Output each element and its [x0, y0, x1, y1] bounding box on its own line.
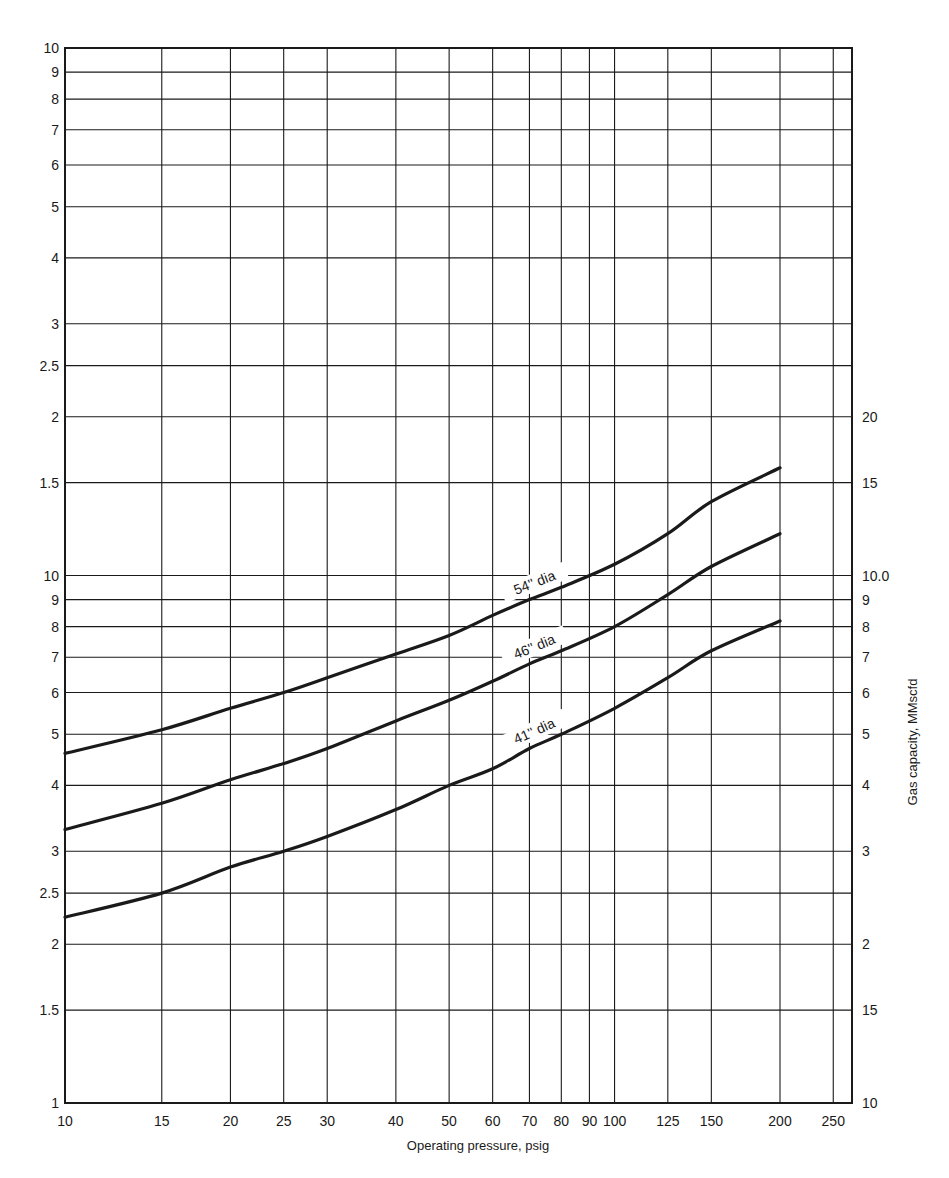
chart-grid — [65, 48, 852, 1103]
x-tick-label: 20 — [223, 1113, 239, 1129]
x-tick-label: 10 — [57, 1113, 73, 1129]
y-left-tick-label: 9 — [51, 64, 59, 80]
y-right-tick-label: 6 — [862, 685, 870, 701]
y-right-tick-label: 15 — [862, 475, 878, 491]
y-left-tick-label: 2 — [51, 409, 59, 425]
y-left-tick-label: 9 — [51, 592, 59, 608]
y-left-tick-label: 1.5 — [40, 1002, 60, 1018]
x-tick-label: 70 — [522, 1113, 538, 1129]
y-left-tick-label: 7 — [51, 122, 59, 138]
curve-label: 41'' dia — [511, 715, 557, 747]
y-right-tick-label: 9 — [862, 592, 870, 608]
gas-capacity-chart: 54'' dia46'' dia41'' dia 11.522.53456789… — [0, 0, 949, 1178]
x-tick-label: 30 — [319, 1113, 335, 1129]
y-left-tick-label: 1 — [51, 1095, 59, 1111]
y-left-tick-label: 3 — [51, 843, 59, 859]
y-axis-right-title: Gas capacity, MMscfd — [905, 679, 920, 806]
x-tick-label: 80 — [554, 1113, 570, 1129]
y-right-tick-label: 15 — [862, 1002, 878, 1018]
y-left-tick-label: 4 — [51, 777, 59, 793]
y-right-tick-label: 3 — [862, 843, 870, 859]
y-right-tick-label: 7 — [862, 649, 870, 665]
y-right-tick-label: 10.0 — [862, 568, 889, 584]
y-right-tick-label: 10 — [862, 1095, 878, 1111]
x-tick-label: 90 — [582, 1113, 598, 1129]
x-tick-label: 100 — [603, 1113, 627, 1129]
y-right-tick-label: 4 — [862, 777, 870, 793]
y-left-tick-label: 2.5 — [40, 885, 60, 901]
x-axis-title: Operating pressure, psig — [407, 1138, 549, 1153]
x-tick-label: 40 — [388, 1113, 404, 1129]
y-left-tick-label: 4 — [51, 250, 59, 266]
y-left-tick-label: 8 — [51, 619, 59, 635]
x-axis-ticks: 1015202530405060708090100125150200250 — [57, 1113, 845, 1129]
x-tick-label: 50 — [441, 1113, 457, 1129]
y-left-tick-label: 6 — [51, 685, 59, 701]
y-right-tick-label: 20 — [862, 409, 878, 425]
x-tick-label: 200 — [768, 1113, 792, 1129]
y-left-tick-label: 3 — [51, 316, 59, 332]
y-axis-right-ticks: 10152345678910.01520 — [862, 409, 889, 1111]
x-tick-label: 60 — [485, 1113, 501, 1129]
x-tick-label: 150 — [700, 1113, 724, 1129]
x-tick-label: 125 — [656, 1113, 680, 1129]
y-left-tick-label: 2.5 — [40, 358, 60, 374]
y-left-tick-label: 2 — [51, 936, 59, 952]
x-tick-label: 25 — [276, 1113, 292, 1129]
y-right-tick-label: 8 — [862, 619, 870, 635]
y-left-tick-label: 10 — [43, 568, 59, 584]
y-right-tick-label: 2 — [862, 936, 870, 952]
x-tick-label: 15 — [154, 1113, 170, 1129]
curve-41in-dia — [65, 621, 780, 917]
y-left-tick-label: 5 — [51, 726, 59, 742]
x-tick-label: 250 — [822, 1113, 846, 1129]
y-left-tick-label: 8 — [51, 91, 59, 107]
y-left-tick-label: 6 — [51, 157, 59, 173]
y-left-tick-label: 5 — [51, 199, 59, 215]
y-right-tick-label: 5 — [862, 726, 870, 742]
y-left-tick-label: 1.5 — [40, 475, 60, 491]
y-left-tick-label: 7 — [51, 649, 59, 665]
y-left-tick-label: 10 — [43, 40, 59, 56]
y-axis-left-ticks: 11.522.53456789101.522.5345678910 — [40, 40, 60, 1111]
